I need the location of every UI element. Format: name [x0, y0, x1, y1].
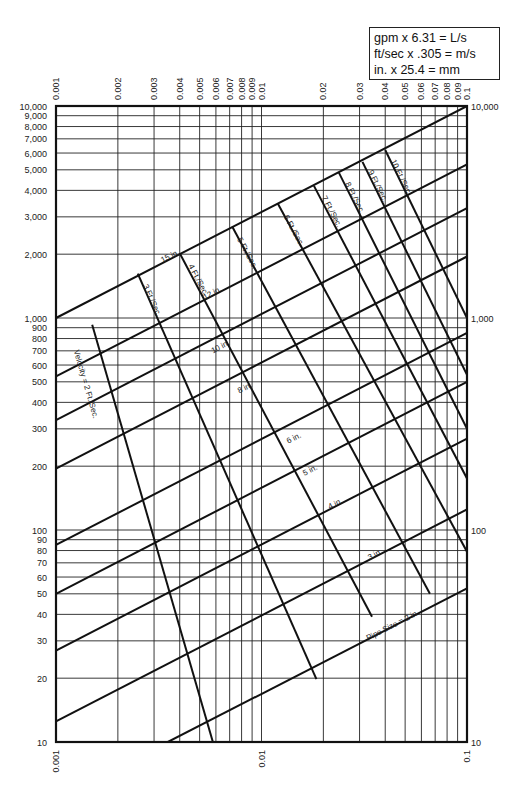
- pipe-size-line: [168, 588, 467, 742]
- x-tick-label-top: 0.07: [430, 82, 440, 100]
- x-tick-label-top: 0.1: [462, 87, 472, 100]
- y-tick-label-left: 500: [32, 377, 47, 387]
- x-tick-label-top: 0.007: [225, 77, 235, 100]
- y-tick-label-left: 200: [32, 462, 47, 472]
- x-tick-label-top: 0.005: [195, 77, 205, 100]
- velocity-label: 5 Ft./Sec.: [235, 236, 259, 270]
- x-tick-label-bottom: 0.01: [257, 750, 267, 768]
- x-tick-label-top: 0.001: [51, 77, 61, 100]
- pipe-size-label: 3 in.: [366, 547, 384, 562]
- y-tick-label-left: 10: [37, 738, 47, 748]
- pipe-size-label: 8 in.: [236, 380, 254, 395]
- y-tick-label-left: 5,000: [24, 165, 47, 175]
- velocity-line: [314, 186, 467, 479]
- y-tick-label-left: 700: [32, 346, 47, 356]
- x-tick-label-top: 0.03: [355, 82, 365, 100]
- velocity-line: [278, 203, 467, 551]
- y-tick-label-left: 10,000: [19, 102, 47, 112]
- y-tick-label-left: 60: [37, 573, 47, 583]
- velocity-label: 4 Ft./Sec.: [186, 263, 210, 297]
- y-tick-label-left: 900: [32, 323, 47, 333]
- pipe-size-label: 15 in.: [159, 248, 181, 265]
- y-tick-label-left: 7,000: [24, 134, 47, 144]
- x-tick-label-top: 0.04: [380, 82, 390, 100]
- y-tick-label-left: 30: [37, 636, 47, 646]
- pipe-size-label: Pipe Size = 2 in.: [365, 608, 421, 643]
- velocity-label: 10 Ft./Sec.: [389, 158, 414, 197]
- x-tick-label-top: 0.01: [257, 82, 267, 100]
- x-tick-label-top: 0.02: [318, 82, 328, 100]
- conversion-velocity: ft/sec x .305 = m/s: [374, 46, 495, 62]
- y-tick-label-left: 100: [32, 526, 47, 536]
- pipe-size-label: 10 in.: [210, 338, 232, 355]
- y-tick-label-left: 8,000: [24, 122, 47, 132]
- x-tick-label-top: 0.08: [442, 82, 452, 100]
- pipe-size-label: 6 in.: [285, 431, 303, 446]
- x-tick-label-bottom: 0.001: [51, 750, 61, 773]
- unit-conversion-legend: gpm x 6.31 = L/s ft/sec x .305 = m/s in.…: [369, 27, 500, 80]
- y-tick-label-left: 80: [37, 546, 47, 556]
- y-tick-label-left: 9,000: [24, 111, 47, 121]
- y-tick-label-right: 10,000: [471, 102, 499, 112]
- x-tick-label-top: 0.006: [211, 77, 221, 100]
- y-tick-label-left: 90: [37, 535, 47, 545]
- velocity-lines: [92, 150, 467, 742]
- velocity-label: 3 Ft./Sec.: [141, 283, 163, 318]
- conversion-inches: in. x 25.4 = mm: [374, 62, 495, 78]
- y-tick-label-left: 2,000: [24, 250, 47, 260]
- y-tick-label-left: 3,000: [24, 212, 47, 222]
- velocity-line: [92, 325, 213, 742]
- y-tick-label-right: 1,000: [471, 314, 494, 324]
- x-tick-label-bottom: 0.1: [462, 750, 472, 763]
- y-tick-label-left: 600: [32, 361, 47, 371]
- y-tick-label-left: 1,000: [24, 314, 47, 324]
- velocity-label: 6 Ft./Sec.: [282, 214, 306, 248]
- y-tick-label-left: 70: [37, 558, 47, 568]
- pipe-size-label: 4 in.: [327, 496, 345, 511]
- x-tick-label-top: 0.06: [416, 82, 426, 100]
- y-tick-label-left: 40: [37, 610, 47, 620]
- y-tick-label-left: 4,000: [24, 186, 47, 196]
- y-tick-label-left: 300: [32, 424, 47, 434]
- pipe-sizing-chart: 0.0010.0020.0030.0040.0050.0060.0070.008…: [0, 0, 512, 794]
- conversion-gpm: gpm x 6.31 = L/s: [374, 30, 495, 46]
- x-tick-label-top: 0.003: [149, 77, 159, 100]
- y-tick-label-left: 20: [37, 674, 47, 684]
- x-tick-label-top: 0.008: [237, 77, 247, 100]
- velocity-label: 9 Ft./Sec.: [366, 169, 389, 204]
- y-tick-label-left: 800: [32, 334, 47, 344]
- velocity-label: 8 Ft./Sec.: [343, 181, 366, 216]
- axis-tick-labels: 0.0010.0020.0030.0040.0050.0060.0070.008…: [19, 77, 498, 772]
- x-tick-label-top: 0.004: [175, 77, 185, 100]
- y-tick-label-left: 400: [32, 398, 47, 408]
- y-tick-label-left: 6,000: [24, 149, 47, 159]
- chart-grid: [56, 106, 467, 742]
- y-tick-label-right: 100: [471, 526, 486, 536]
- x-tick-label-top: 0.002: [113, 77, 123, 100]
- y-tick-label-right: 10: [471, 738, 481, 748]
- y-tick-label-left: 50: [37, 589, 47, 599]
- x-tick-label-top: 0.05: [400, 82, 410, 100]
